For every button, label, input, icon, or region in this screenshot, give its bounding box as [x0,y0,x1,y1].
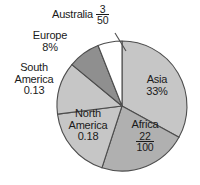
slice-label-south-america: South America 0.13 [2,62,66,97]
north-america-name-line1: North [57,108,119,120]
africa-numerator: 22 [136,131,155,142]
asia-name: Asia [134,74,180,86]
europe-value: 8% [20,42,80,54]
north-america-value: 0.18 [57,131,119,143]
africa-name: Africa [122,119,168,131]
asia-value: 33% [134,86,180,98]
slice-label-africa: Africa 22 100 [122,119,168,152]
south-america-name-line1: South [2,62,66,74]
slice-label-europe: Europe 8% [20,30,80,53]
slice-label-asia: Asia 33% [134,74,180,97]
australia-fraction: 3 50 [96,4,109,25]
australia-name: Australia [52,9,93,21]
africa-denominator: 100 [136,142,155,152]
australia-denominator: 50 [96,15,109,25]
slice-label-australia: Australia 3 50 [52,4,152,25]
pie-slice-group [57,41,187,171]
slice-label-north-america: North America 0.18 [57,108,119,143]
africa-fraction: 22 100 [136,131,155,152]
europe-name: Europe [20,30,80,42]
south-america-value: 0.13 [2,85,66,97]
pie-chart-figure: Australia 3 50 Europe 8% South America 0… [0,0,200,185]
